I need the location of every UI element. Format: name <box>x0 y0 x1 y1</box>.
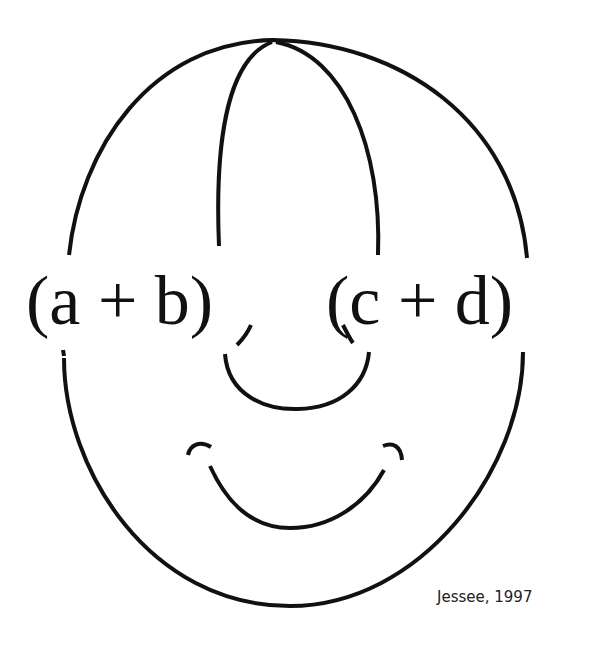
left-expression: (a + b) <box>26 266 213 336</box>
inner-loop-bottom <box>225 352 369 409</box>
smile-cheek-left <box>188 444 211 455</box>
outline-lower-arc <box>64 352 523 606</box>
right-expression: (c + d) <box>326 266 513 336</box>
loop-tick-left <box>237 325 251 345</box>
inner-loop-left-strand <box>218 42 272 246</box>
smile-mouth <box>210 466 384 528</box>
inner-loop-right-strand <box>276 42 378 255</box>
credit-caption: Jessee, 1997 <box>437 588 532 606</box>
outline-tick-left <box>63 350 64 356</box>
knot-figure: (a + b) (c + d) Jessee, 1997 <box>0 0 604 645</box>
outline-upper-arc <box>69 40 527 258</box>
smile-cheek-right <box>383 445 402 460</box>
